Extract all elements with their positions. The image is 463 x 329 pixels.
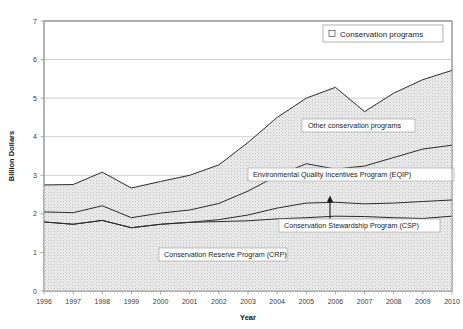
x-tick-label: 2010 <box>444 298 460 305</box>
chart-container: 7 6 5 4 3 2 1 0 Billion Dollars 19961997… <box>0 0 463 329</box>
y-tick-label: 0 <box>33 288 37 295</box>
y-axis-title: Billion Dollars <box>7 131 16 181</box>
other-conservation-programs-callout: Other conservation programs <box>302 119 415 132</box>
y-tick-label: 4 <box>33 133 37 140</box>
y-tick-label: 6 <box>33 56 37 63</box>
legend[interactable]: Conservation programs <box>323 25 443 42</box>
x-tick-label: 2002 <box>211 298 227 305</box>
callout-label: Environmental Quality Incentives Program… <box>253 170 411 179</box>
x-axis-title: Year <box>240 313 256 322</box>
square-marker-icon <box>329 31 335 37</box>
eqip-callout: Environmental Quality Incentives Program… <box>248 168 454 181</box>
x-tick-label: 2009 <box>415 298 431 305</box>
x-tick-label: 2004 <box>269 298 285 305</box>
y-tick-label: 2 <box>33 210 37 217</box>
x-tick-label: 1997 <box>65 298 81 305</box>
callout-label: Other conservation programs <box>308 121 401 130</box>
legend-entry-label: Conservation programs <box>340 30 423 39</box>
stacked-area-chart: 7 6 5 4 3 2 1 0 Billion Dollars 19961997… <box>0 0 463 329</box>
callout-label: Conservation Reserve Program (CRP) <box>164 250 287 259</box>
x-tick-label: 2006 <box>328 298 344 305</box>
y-tick-label: 5 <box>33 95 37 102</box>
x-tick-label: 1999 <box>124 298 140 305</box>
x-tick-label: 2007 <box>357 298 373 305</box>
x-tick-label: 1998 <box>94 298 110 305</box>
y-tick-label: 3 <box>33 172 37 179</box>
crp-callout: Conservation Reserve Program (CRP) <box>159 248 287 261</box>
x-tick-label: 2005 <box>298 298 314 305</box>
callout-label: Conservation Stewardship Program (CSP) <box>284 221 419 230</box>
x-tick-label: 2001 <box>182 298 198 305</box>
x-axis-tick-labels: 1996199719981999200020012002200320042005… <box>36 298 460 305</box>
y-tick-label: 7 <box>33 18 37 25</box>
y-tick-label: 1 <box>33 249 37 256</box>
x-tick-label: 2000 <box>153 298 169 305</box>
x-tick-label: 2003 <box>240 298 256 305</box>
x-tick-label: 1996 <box>36 298 52 305</box>
x-tick-label: 2008 <box>386 298 402 305</box>
